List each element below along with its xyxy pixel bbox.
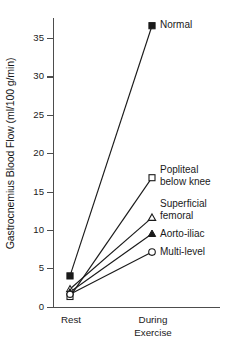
marker-multi-level-exercise <box>149 249 156 256</box>
marker-popliteal-exercise <box>149 175 155 181</box>
series-line-aorto-iliac <box>70 234 152 292</box>
series-line-normal <box>70 26 152 276</box>
x-tick-label-rest: Rest <box>42 314 100 327</box>
marker-multi-level-rest <box>67 291 73 297</box>
marker-aorto-iliac-exercise <box>148 230 155 237</box>
marker-normal-rest <box>67 273 73 279</box>
series-annotation-normal: Normal <box>160 19 192 31</box>
series-annotation-aorto-iliac: Aorto-iliac <box>160 228 204 240</box>
series-annotation-multi-level: Multi-level <box>160 246 205 258</box>
marker-superficial-femoral-exercise <box>148 214 155 221</box>
series-line-multi-level <box>70 252 152 294</box>
series-annotation-popliteal: Popliteal below knee <box>160 164 211 189</box>
blood-flow-line-chart: Gastrocnemius Blood Flow (ml/100 g/min) … <box>0 0 227 359</box>
series-line-superficial-femoral <box>70 218 152 289</box>
x-tick-label-during-exercise: During Exercise <box>120 314 186 339</box>
marker-normal-exercise <box>149 23 155 29</box>
series-annotation-superficial-femoral: Superficial femoral <box>160 198 207 223</box>
